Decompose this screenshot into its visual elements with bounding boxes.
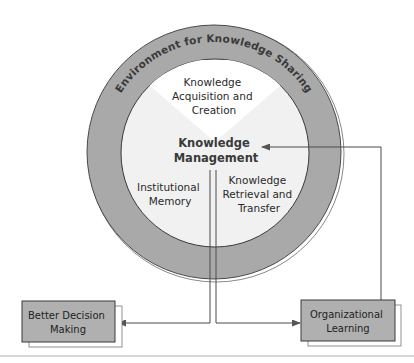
organizational-learning-box: Organizational Learning (301, 300, 401, 346)
better-decision-box: Better Decision Making (22, 301, 122, 347)
knowledge-management-label: Knowledge Management (174, 136, 259, 165)
knowledge-management-diagram: Environment for Knowledge Sharing Knowle… (0, 0, 414, 363)
